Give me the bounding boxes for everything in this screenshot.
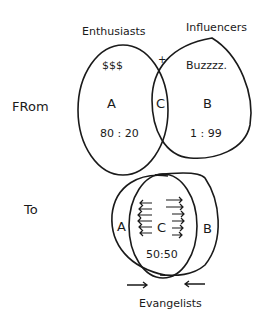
from-set-a-name: A: [107, 97, 116, 110]
left-arrows-icon: [138, 200, 152, 236]
from-circle-a: [78, 45, 168, 175]
to-intersection-ratio: 50:50: [146, 249, 178, 260]
intersection-plus-marker: +: [158, 55, 166, 65]
buzz-symbol: Buzzzz.: [186, 60, 227, 71]
enthusiasts-title: Enthusiasts: [82, 26, 145, 37]
venn-diagram-drawing: [0, 0, 266, 332]
evangelists-caption: Evangelists: [139, 298, 202, 309]
from-set-b-ratio: 1 : 99: [190, 128, 222, 139]
to-set-a-name: A: [117, 220, 126, 233]
from-label: FRom: [12, 100, 49, 113]
from-set-b-name: B: [203, 97, 212, 110]
evangelist-arrows-icon: [127, 281, 205, 288]
from-set-a-ratio: 80 : 20: [100, 128, 139, 139]
influencers-title: Influencers: [186, 22, 247, 33]
right-arrows-icon: [166, 197, 184, 238]
to-intersection-name: C: [157, 221, 166, 234]
to-set-b-name: B: [203, 222, 212, 235]
from-intersection-name: C: [156, 97, 165, 110]
money-symbol: $$$: [102, 60, 123, 71]
to-label: To: [24, 203, 38, 216]
